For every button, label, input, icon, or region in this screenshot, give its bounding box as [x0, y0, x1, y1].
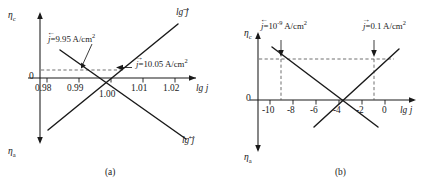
leader-reverse-a: [82, 44, 92, 66]
panel-b-graphics: [222, 0, 443, 190]
eta-cathodic-label-b: ηc: [244, 28, 252, 41]
x-tick-label-a-0: 0.98: [35, 84, 51, 93]
x-tick-label-a-3: 1.01: [131, 84, 147, 93]
leader-forward-arrowhead-b: [371, 50, 377, 57]
x-tick-label-b-4: -2: [356, 106, 364, 115]
leader-forward-arrowhead-a: [116, 65, 123, 71]
x-tick-label-b-5: 0: [382, 106, 387, 115]
x-tick-label-b-0: -10: [262, 106, 275, 115]
x-tick-label-b-3: -4: [333, 106, 341, 115]
annotation-forward-current-b: →j=0.1 A/cm2: [363, 20, 406, 31]
y-axis-up-arrowhead-b: [255, 32, 261, 39]
y-axis-up-arrowhead-a: [37, 12, 43, 19]
x-axis-arrowhead-b: [409, 97, 416, 103]
caption-b: (b): [335, 168, 346, 177]
eta-anodic-label-a: ηa: [8, 146, 16, 159]
panel-a: ηc ηa 0 0.98 0.99 1.00 1.01 1.02 lg j lg…: [0, 0, 222, 190]
x-tick-label-a-4: 1.02: [163, 84, 179, 93]
curve-label-forward-a: lg j→: [176, 8, 198, 17]
eta-anodic-label-b: ηa: [244, 152, 252, 165]
x-tick-label-a-1: 0.99: [67, 84, 83, 93]
x-ticks-b: [270, 100, 385, 105]
x-axis-arrowhead-a: [189, 75, 196, 81]
x-axis-label-a: lg j: [196, 84, 208, 93]
caption-a: (a): [105, 168, 115, 177]
y-axis-down-arrowhead-b: [255, 145, 261, 152]
y-axis-down-arrowhead-a: [37, 137, 43, 144]
x-tick-label-b-2: -6: [310, 106, 318, 115]
origin-label-b: 0: [246, 93, 251, 103]
eta-cathodic-label-a: ηc: [8, 10, 16, 23]
annotation-reverse-current-b: ←j=10-9 A/cm2: [261, 20, 307, 31]
x-tick-label-a-2: 1.00: [99, 90, 115, 99]
x-axis-label-b: lg j: [400, 106, 412, 115]
curve-label-reverse-a: lg j←: [182, 136, 204, 145]
figure-root: ηc ηa 0 0.98 0.99 1.00 1.01 1.02 lg j lg…: [0, 0, 443, 190]
annotation-reverse-current-a: ←j=9.95 A/cm2: [48, 33, 95, 44]
x-tick-label-b-1: -8: [287, 106, 295, 115]
annotation-forward-current-a: →j=10.05 A/cm2: [136, 58, 188, 69]
panel-b: ηc ηa 0 -10 -8 -6 -4 -2 0 lg j ←j=10-9 A…: [222, 0, 443, 190]
origin-label-a: 0: [29, 71, 34, 81]
